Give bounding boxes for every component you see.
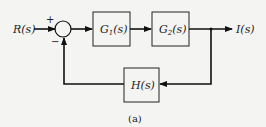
block-g2-label: G2(s) bbox=[159, 23, 187, 37]
caption: (a) bbox=[128, 113, 142, 124]
minus-sign: − bbox=[51, 36, 59, 47]
feedback-arrow-to-h bbox=[160, 29, 211, 84]
output-label: I(s) bbox=[235, 23, 255, 36]
feedback-arrow-to-sum bbox=[64, 38, 124, 84]
plus-sign: + bbox=[46, 14, 54, 25]
block-g1-label: G1(s) bbox=[100, 23, 128, 37]
block-diagram: R(s) + − G1(s) G2(s) I(s) H(s) (a) bbox=[0, 0, 266, 127]
input-label: R(s) bbox=[12, 23, 36, 36]
summing-junction bbox=[55, 21, 71, 37]
block-h-label: H(s) bbox=[130, 79, 155, 92]
